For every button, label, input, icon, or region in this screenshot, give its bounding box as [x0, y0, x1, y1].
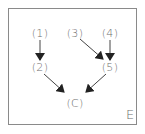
corner-label: E: [126, 107, 134, 122]
edge-5-to-c: [86, 74, 106, 92]
edge-3-to-5: [80, 39, 103, 59]
edge-2-to-c: [44, 74, 64, 92]
node-1: (1): [32, 27, 48, 40]
node-5: (5): [102, 61, 118, 74]
node-3: (3): [67, 27, 83, 40]
edges-layer: [0, 0, 145, 134]
node-2: (2): [32, 61, 48, 74]
node-c: (C): [66, 97, 83, 110]
node-4: (4): [102, 27, 118, 40]
